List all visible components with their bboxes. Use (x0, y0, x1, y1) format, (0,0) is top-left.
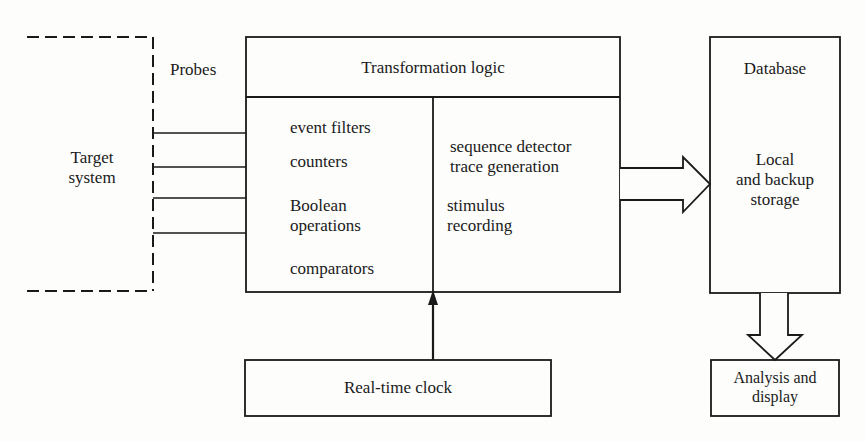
right-item-recording: recording (447, 216, 512, 236)
probe-lines (153, 133, 246, 233)
analysis-label-line1: Analysis and (711, 368, 839, 387)
right-item-sequence-detector: sequence detector (450, 137, 571, 157)
probes-label: Probes (170, 60, 216, 80)
analysis-label: Analysis and display (711, 368, 839, 406)
real-time-clock-label: Real-time clock (245, 378, 551, 398)
arrow-to-database (620, 157, 710, 212)
left-item-operations: operations (290, 216, 361, 236)
left-item-boolean: Boolean (290, 196, 347, 216)
left-item-comparators: comparators (290, 259, 374, 279)
right-item-stimulus: stimulus (447, 196, 505, 216)
target-system-label: Target system (52, 148, 132, 188)
left-item-counters: counters (290, 152, 348, 172)
target-system-label-line2: system (52, 168, 132, 188)
database-body: Local and backup storage (710, 150, 840, 210)
database-body-line1: Local (710, 150, 840, 170)
target-system-label-line1: Target (52, 148, 132, 168)
transformation-logic-title: Transformation logic (246, 58, 620, 78)
arrow-to-analysis (748, 293, 802, 360)
clock-arrow (428, 290, 438, 360)
analysis-label-line2: display (711, 387, 839, 406)
database-body-line2: and backup (710, 170, 840, 190)
right-item-trace-generation: trace generation (450, 157, 559, 177)
left-item-event-filters: event filters (290, 118, 371, 138)
database-title: Database (710, 59, 840, 79)
database-body-line3: storage (710, 190, 840, 210)
